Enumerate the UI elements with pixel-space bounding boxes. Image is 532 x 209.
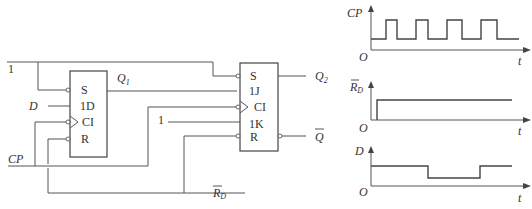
circuit-diagram: 1 S 1D CI R D Q1 CP RD 1 S 1J CI 1K	[0, 0, 532, 209]
q1-label: Q1	[117, 71, 130, 87]
ff1-pin-ci: CI	[82, 115, 94, 129]
r-bubble-icon	[236, 134, 240, 138]
x-arrow-icon	[523, 117, 531, 123]
r-bubble-icon	[66, 137, 70, 141]
ff2-pin-ci: CI	[254, 100, 266, 114]
s-bubble-icon	[236, 74, 240, 78]
svg-text:t: t	[518, 191, 522, 205]
ff2-pin-r: R	[250, 130, 258, 144]
q2-label: Q2	[315, 69, 328, 85]
cp-input-label: CP	[8, 152, 24, 166]
qbar-bubble-icon	[278, 134, 282, 138]
x-arrow-icon	[523, 47, 531, 53]
ci-bubble-icon	[66, 120, 70, 124]
svg-text:O: O	[359, 121, 368, 135]
svg-text:t: t	[518, 54, 522, 68]
flip-flop-2: S 1J CI 1K R	[236, 63, 282, 151]
const-one-k-label: 1	[158, 113, 164, 127]
rd-wave-label: RD	[349, 80, 363, 95]
cp-wave-label: CP	[347, 6, 363, 20]
rd-input-label: RD	[212, 186, 226, 201]
ff2-pin-1j: 1J	[249, 84, 260, 98]
qbar-label: Q	[315, 130, 324, 144]
x-arrow-icon	[523, 183, 531, 189]
y-arrow-icon	[368, 81, 374, 88]
rd-to-ff2-r-wire	[184, 136, 237, 193]
ff1-pin-r: R	[81, 132, 89, 146]
y-arrow-icon	[368, 146, 374, 153]
d-wave-label: D	[354, 144, 364, 158]
const-one-label: 1	[8, 62, 14, 76]
d-input-label: D	[28, 99, 38, 113]
ff1-pin-s: S	[81, 83, 88, 97]
ci-bubble-icon	[236, 105, 240, 109]
svg-text:O: O	[359, 50, 368, 64]
cp-to-ff1-ci-wire	[35, 122, 66, 166]
s-bubble-icon	[66, 88, 70, 92]
svg-text:O: O	[359, 185, 368, 199]
cp-waveform: CP O t	[347, 5, 531, 68]
y-arrow-icon	[368, 5, 374, 12]
svg-text:t: t	[518, 124, 522, 138]
ff2-pin-1k: 1K	[249, 117, 264, 131]
flip-flop-1: S 1D CI R	[66, 71, 107, 157]
rd-waveform: RD O t	[349, 80, 531, 138]
ff2-pin-s: S	[250, 69, 257, 83]
ff1-pin-1d: 1D	[80, 99, 95, 113]
d-waveform: D O t	[354, 144, 531, 205]
